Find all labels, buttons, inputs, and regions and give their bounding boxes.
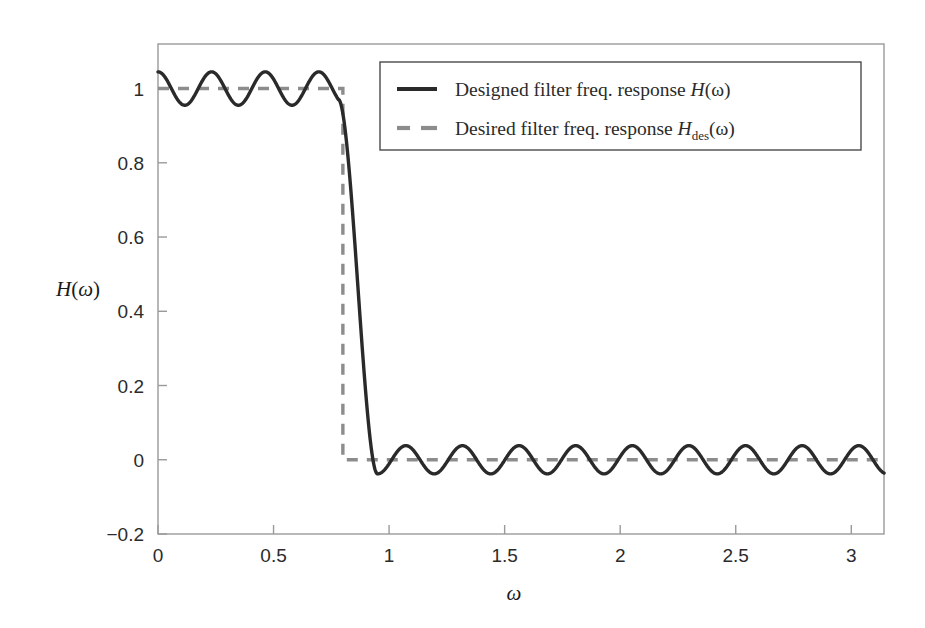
y-axis-title: H(ω) [55,277,100,301]
y-tick-label: 0.4 [118,301,145,322]
x-tick-label: 1 [384,545,395,566]
y-tick-label: 0 [133,450,144,471]
y-tick-label: 0.8 [118,153,144,174]
legend: Designed filter freq. response H(ω) Desi… [380,62,861,150]
x-tick-label: 3 [846,545,857,566]
y-tick-label: −0.2 [106,524,144,545]
legend-label-designed: Designed filter freq. response H(ω) [455,79,730,101]
filter-frequency-response-figure: 00.511.522.53 −0.200.20.40.60.81 H(ω) ω … [0,0,925,628]
y-tick-label: 0.2 [118,376,144,397]
plot-canvas: 00.511.522.53 −0.200.20.40.60.81 H(ω) ω … [0,0,925,628]
x-tick-label: 0.5 [260,545,286,566]
x-tick-label: 0 [153,545,164,566]
y-tick-label: 1 [133,79,144,100]
x-tick-label: 1.5 [491,545,517,566]
x-axis-title: ω [507,581,522,605]
x-tick-label: 2.5 [723,545,749,566]
x-tick-label: 2 [615,545,626,566]
y-tick-label: 0.6 [118,227,144,248]
